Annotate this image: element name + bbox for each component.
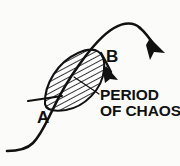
point-a-label: A [37,108,49,127]
diagram-canvas: A B PERIOD OF CHAOS [0,0,180,166]
chaos-region [45,50,104,111]
caption-line-2: OF CHAOS [100,102,180,119]
caption-line-1: PERIOD [100,86,159,103]
point-b-label: B [106,47,118,66]
outcome-arrow-top [140,28,165,60]
chaos-diagram: A B PERIOD OF CHAOS [0,0,180,166]
